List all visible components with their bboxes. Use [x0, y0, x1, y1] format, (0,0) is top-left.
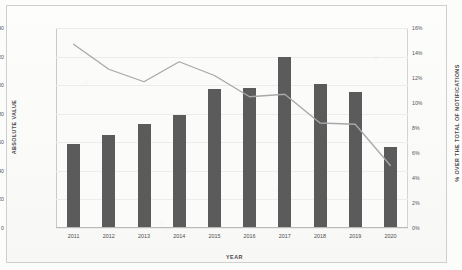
y-tick-label-left: 0 — [0, 225, 4, 231]
x-tick-label: 2020 — [373, 233, 408, 239]
gridline — [56, 228, 408, 229]
x-tick-label: 2014 — [162, 233, 197, 239]
y-tick-label-left: 80 — [0, 111, 4, 117]
y-axis-left-title: ABSOLUTE VALUE — [11, 87, 17, 167]
y-tick-label-right: 8% — [412, 125, 442, 131]
y-tick-label-right: 10% — [412, 100, 442, 106]
y-axis-right-title: % OVER THE TOTAL OF NOTIFICATIONS — [454, 48, 460, 198]
y-tick-label-right: 0% — [412, 225, 442, 231]
x-tick-label: 2011 — [56, 233, 91, 239]
plot-area: 020406080100120140 0%2%4%6%8%10%12%14%16… — [56, 28, 408, 228]
y-tick-label-right: 4% — [412, 175, 442, 181]
y-tick-label-right: 12% — [412, 75, 442, 81]
x-tick-label: 2012 — [91, 233, 126, 239]
y-tick-label-right: 6% — [412, 150, 442, 156]
y-tick-label-left: 20 — [0, 196, 4, 202]
percentage-line — [74, 44, 391, 165]
y-tick-label-left: 100 — [0, 82, 4, 88]
y-tick-label-left: 120 — [0, 54, 4, 60]
y-tick-label-right: 14% — [412, 50, 442, 56]
x-tick-label: 2019 — [338, 233, 373, 239]
x-tick-label: 2016 — [232, 233, 267, 239]
y-tick-label-right: 2% — [412, 200, 442, 206]
chart-frame: ABSOLUTE VALUE % OVER THE TOTAL OF NOTIF… — [6, 5, 447, 263]
x-tick-label: 2015 — [197, 233, 232, 239]
x-tick-label: 2018 — [302, 233, 337, 239]
y-tick-label-left: 60 — [0, 139, 4, 145]
y-tick-label-left: 40 — [0, 168, 4, 174]
x-tick-label: 2013 — [126, 233, 161, 239]
x-axis-title: YEAR — [7, 254, 462, 260]
x-axis-line — [56, 227, 408, 228]
line-series — [56, 28, 408, 228]
y-tick-label-left: 140 — [0, 25, 4, 31]
x-tick-label: 2017 — [267, 233, 302, 239]
y-tick-label-right: 16% — [412, 25, 442, 31]
